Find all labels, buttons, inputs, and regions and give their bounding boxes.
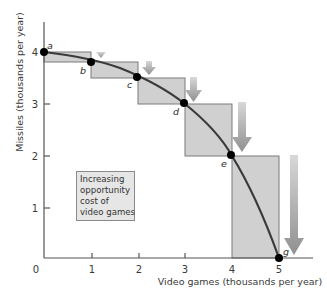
svg-text:2: 2: [136, 264, 142, 275]
arrow-down-icon: [142, 61, 156, 75]
svg-text:g: g: [283, 246, 289, 257]
step-box-c-d: [138, 78, 185, 104]
point-g: [275, 254, 283, 262]
point-c: [133, 73, 141, 81]
svg-text:3: 3: [182, 264, 188, 275]
svg-text:4: 4: [229, 264, 235, 275]
svg-text:a: a: [47, 40, 53, 51]
svg-text:c: c: [127, 79, 133, 90]
arrow-down-icon: [232, 102, 252, 152]
ppf-chart: 4 3 2 1 0 1 2 3 4 5 Video games (thousan…: [0, 0, 327, 300]
point-b: [87, 58, 95, 66]
svg-text:1: 1: [32, 203, 38, 214]
svg-text:1: 1: [89, 264, 95, 275]
point-d: [180, 99, 188, 107]
step-box-d-e: [185, 104, 232, 156]
arrow-down-icon: [185, 77, 202, 102]
step-box-b-c: [91, 62, 138, 78]
annotation-line: video games: [80, 207, 131, 218]
x-tick-labels: 0 1 2 3 4 5: [33, 264, 282, 275]
point-e: [227, 151, 235, 159]
x-axis-title: Video games (thousands per year): [158, 276, 322, 287]
svg-text:3: 3: [32, 99, 38, 110]
y-tick-labels: 4 3 2 1: [32, 47, 38, 214]
svg-text:d: d: [173, 106, 180, 117]
svg-text:5: 5: [276, 264, 282, 275]
annotation-line: Increasing: [80, 174, 131, 185]
svg-text:e: e: [221, 158, 227, 169]
svg-text:2: 2: [32, 151, 38, 162]
annotation-line: cost of: [80, 196, 131, 207]
arrow-down-icon: [96, 52, 106, 58]
y-axis-title: Missiles (thousands per year): [14, 12, 25, 152]
opportunity-cost-boxes: [44, 52, 279, 258]
svg-text:4: 4: [32, 47, 38, 58]
step-box-e-g: [232, 156, 279, 258]
svg-text:b: b: [80, 65, 86, 76]
arrow-down-icon: [284, 155, 304, 255]
annotation-line: opportunity: [80, 185, 131, 196]
svg-text:0: 0: [33, 264, 39, 275]
annotation-box: Increasing opportunity cost of video gam…: [76, 171, 135, 221]
